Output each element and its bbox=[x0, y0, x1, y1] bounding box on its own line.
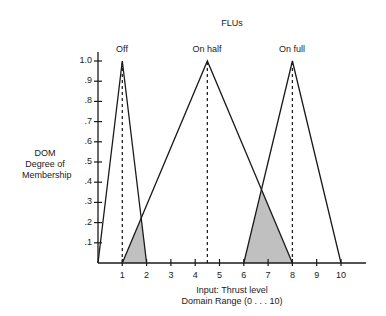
plot-area bbox=[0, 0, 386, 316]
y-tick-label: .6 bbox=[84, 136, 92, 146]
shaded-region bbox=[122, 219, 146, 263]
y-tick-label: .7 bbox=[84, 116, 92, 126]
y-tick-label: .8 bbox=[84, 95, 92, 105]
x-tick-label: 6 bbox=[241, 270, 246, 280]
x-tick-label: 8 bbox=[290, 270, 295, 280]
y-tick-label: .1 bbox=[84, 237, 92, 247]
y-tick-label: .9 bbox=[84, 75, 92, 85]
y-tick-label: .2 bbox=[84, 217, 92, 227]
x-tick-label: 10 bbox=[336, 270, 346, 280]
y-tick-label: .3 bbox=[84, 196, 92, 206]
y-tick-label: .5 bbox=[84, 156, 92, 166]
x-tick-label: 2 bbox=[144, 270, 149, 280]
y-tick-label: 1.0 bbox=[79, 55, 92, 65]
x-tick-label: 5 bbox=[217, 270, 222, 280]
x-tick-label: 1 bbox=[120, 270, 125, 280]
x-tick-label: 4 bbox=[193, 270, 198, 280]
x-tick-label: 3 bbox=[168, 270, 173, 280]
x-tick-label: 7 bbox=[266, 270, 271, 280]
shaded-region bbox=[244, 190, 293, 263]
x-tick-label: 9 bbox=[314, 270, 319, 280]
y-tick-label: .4 bbox=[84, 176, 92, 186]
